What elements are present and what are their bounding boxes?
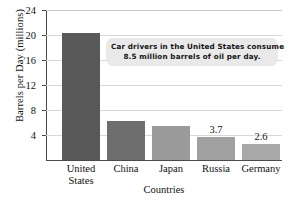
y-tick-mark-16: 16	[42, 60, 46, 61]
plot-area: 24 20 16 12 8 4	[46, 10, 282, 160]
bar-japan	[152, 126, 190, 160]
bar-germany: 2.6	[242, 144, 280, 160]
x-axis-line	[46, 160, 282, 161]
y-axis-title: Barrels per Day (millions)	[14, 0, 25, 141]
y-tick-label-20: 20	[26, 30, 37, 41]
y-tick-label-24: 24	[26, 5, 37, 16]
y-tick-label-4: 4	[31, 130, 36, 141]
bar-value-russia: 3.7	[209, 124, 222, 135]
bar-chart-figure: Barrels per Day (millions) 24 20 16 12 8…	[0, 0, 289, 202]
x-axis-title: Countries	[46, 184, 282, 195]
y-tick-mark-4: 4	[42, 135, 46, 136]
x-tick-label-germany: Germany	[235, 163, 287, 175]
y-tick-mark-24: 24	[42, 10, 46, 11]
bar-value-germany: 2.6	[254, 131, 267, 142]
gridline-24	[46, 10, 282, 11]
bar-united-states	[62, 33, 100, 161]
y-tick-label-16: 16	[26, 55, 37, 66]
bar-china	[107, 121, 145, 160]
y-tick-label-12: 12	[26, 80, 37, 91]
callout-line-2: 8.5 million barrels of oil per day.	[111, 52, 273, 62]
callout-line-1: Car drivers in the United States consume	[111, 42, 273, 52]
bar-russia: 3.7	[197, 137, 235, 160]
y-tick-mark-20: 20	[42, 35, 46, 36]
y-tick-mark-12: 12	[42, 85, 46, 86]
y-tick-mark-8: 8	[42, 110, 46, 111]
callout-annotation: Car drivers in the United States consume…	[106, 38, 278, 66]
y-tick-label-8: 8	[31, 105, 36, 116]
